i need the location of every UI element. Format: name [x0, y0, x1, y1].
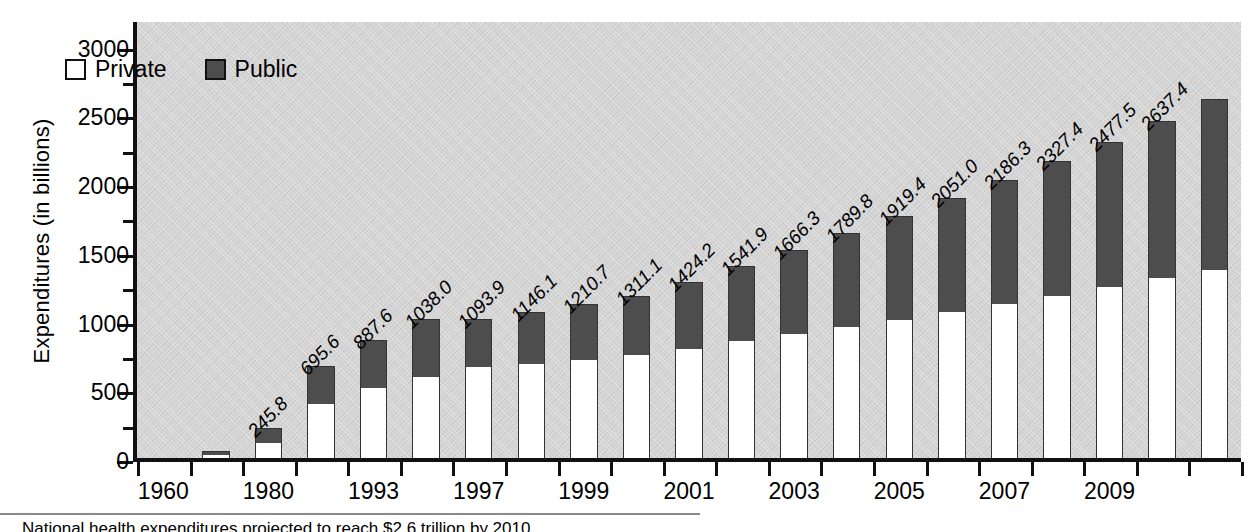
bar-segment-private — [1148, 278, 1175, 462]
bar-segment-private — [886, 320, 913, 462]
y-tick-label: 2000 — [9, 175, 129, 198]
bar-segment-private — [412, 377, 439, 462]
x-tick — [505, 462, 508, 476]
caption-divider — [0, 513, 700, 515]
bar-segment-private — [1043, 296, 1070, 462]
x-tick — [1136, 462, 1139, 476]
legend: Private Public — [65, 56, 297, 83]
bar-2006 — [938, 198, 965, 462]
bar-1997 — [465, 319, 492, 462]
y-tick-minor — [123, 220, 133, 223]
x-tick-label: 1993 — [314, 478, 434, 505]
y-tick-minor — [123, 152, 133, 155]
y-tick-minor — [123, 83, 133, 86]
bar-2011 — [1201, 99, 1228, 462]
x-tick — [1083, 462, 1086, 476]
bar-segment-private — [623, 355, 650, 462]
legend-swatch-private-icon — [65, 59, 86, 80]
x-tick — [978, 462, 981, 476]
y-tick-label: 2500 — [9, 106, 129, 129]
bar-segment-private — [833, 327, 860, 462]
x-tick — [1241, 462, 1244, 476]
y-tick-label: 1000 — [9, 313, 129, 336]
bar-1999 — [570, 304, 597, 462]
bar-2001 — [675, 282, 702, 462]
x-tick — [1188, 462, 1191, 476]
bar-segment-private — [307, 404, 334, 462]
bar-1995 — [412, 319, 439, 462]
x-axis-line — [133, 458, 1241, 462]
bar-segment-private — [991, 304, 1018, 462]
x-tick-label: 2007 — [944, 478, 1064, 505]
x-tick — [820, 462, 823, 476]
x-tick — [242, 462, 245, 476]
x-tick — [926, 462, 929, 476]
bar-segment-private — [780, 334, 807, 462]
bar-1990 — [307, 366, 334, 462]
x-tick — [715, 462, 718, 476]
x-tick — [400, 462, 403, 476]
plot-area: 245.8695.6887.61038.01093.91146.11210.71… — [137, 22, 1241, 462]
x-tick — [190, 462, 193, 476]
legend-swatch-public-icon — [205, 59, 226, 80]
legend-item-private: Private — [65, 56, 167, 83]
x-tick-label: 2005 — [839, 478, 959, 505]
x-tick-label: 1999 — [524, 478, 644, 505]
x-tick — [347, 462, 350, 476]
y-tick-label: 0 — [9, 450, 129, 473]
x-tick — [873, 462, 876, 476]
bar-segment-public — [1148, 121, 1175, 277]
legend-item-public: Public — [205, 56, 298, 83]
x-tick-label: 2001 — [629, 478, 749, 505]
bar-segment-private — [465, 367, 492, 462]
bar-segment-public — [1096, 142, 1123, 287]
legend-label-public: Public — [235, 56, 298, 83]
bar-segment-public — [833, 233, 860, 327]
bar-2004 — [833, 233, 860, 462]
y-tick-minor — [123, 289, 133, 292]
figure-caption: National health expenditures projected t… — [22, 519, 1222, 532]
bar-1998 — [518, 312, 545, 462]
x-tick-label: 1980 — [208, 478, 328, 505]
x-tick — [610, 462, 613, 476]
bar-segment-private — [1201, 270, 1228, 462]
bar-segment-public — [991, 180, 1018, 304]
bar-2003 — [780, 250, 807, 462]
x-tick — [137, 462, 140, 476]
bar-2009 — [1096, 142, 1123, 462]
x-tick — [452, 462, 455, 476]
bar-2002 — [728, 266, 755, 462]
x-tick-label: 2003 — [734, 478, 854, 505]
bar-segment-private — [938, 312, 965, 462]
bar-segment-private — [1096, 287, 1123, 462]
y-axis-line — [133, 22, 137, 462]
y-tick-minor — [123, 358, 133, 361]
bar-2000 — [623, 296, 650, 462]
bar-segment-private — [728, 341, 755, 462]
bar-segment-private — [360, 388, 387, 462]
bar-segment-private — [675, 349, 702, 462]
bar-2010 — [1148, 121, 1175, 462]
y-tick-label: 1500 — [9, 244, 129, 267]
legend-label-private: Private — [95, 56, 167, 83]
x-tick — [768, 462, 771, 476]
x-tick — [1031, 462, 1034, 476]
x-tick-label: 2009 — [1050, 478, 1170, 505]
bar-segment-public — [1043, 161, 1070, 295]
bar-segment-public — [1201, 99, 1228, 269]
y-tick-label: 500 — [9, 381, 129, 404]
x-tick — [558, 462, 561, 476]
x-tick-label: 1997 — [419, 478, 539, 505]
bar-segment-public — [886, 216, 913, 320]
bar-2005 — [886, 216, 913, 462]
x-tick-label: 1960 — [103, 478, 223, 505]
bar-2007 — [991, 180, 1018, 462]
x-tick — [663, 462, 666, 476]
bar-2008 — [1043, 161, 1070, 462]
bar-1993 — [360, 340, 387, 462]
bar-segment-public — [938, 198, 965, 312]
bar-segment-private — [518, 364, 545, 462]
bar-segment-private — [570, 360, 597, 462]
x-tick — [295, 462, 298, 476]
y-tick-minor — [123, 427, 133, 430]
